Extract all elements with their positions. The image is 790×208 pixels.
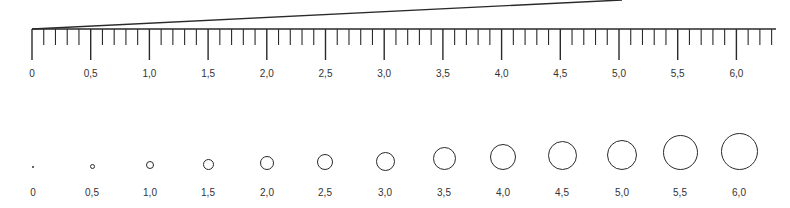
size-circle bbox=[146, 161, 154, 169]
size-circle bbox=[317, 154, 333, 170]
ruler-tick-label: 3,5 bbox=[436, 69, 450, 79]
ruler-tick-label: 2,5 bbox=[319, 69, 333, 79]
size-circle bbox=[260, 156, 274, 170]
ruler-tick-label: 1,5 bbox=[201, 69, 215, 79]
size-circle bbox=[548, 141, 577, 170]
size-circle bbox=[607, 140, 637, 170]
ruler-tick-label: 2,0 bbox=[260, 69, 274, 79]
size-circle bbox=[721, 133, 758, 170]
dot-icon bbox=[32, 166, 34, 168]
diagram-canvas: 00,51,01,52,02,53,03,54,04,55,05,56,0 00… bbox=[0, 0, 790, 208]
ruler-tick-label: 6,0 bbox=[729, 69, 743, 79]
circle-size-label: 4,5 bbox=[555, 188, 569, 198]
size-circle bbox=[90, 164, 95, 169]
ruler-tick-label: 4,5 bbox=[553, 69, 567, 79]
ruler-tick-label: 5,0 bbox=[612, 69, 626, 79]
circle-size-label: 1,5 bbox=[201, 188, 215, 198]
circle-size-label: 5,5 bbox=[673, 188, 687, 198]
ruler-tick-label: 4,0 bbox=[495, 69, 509, 79]
circle-size-label: 4,0 bbox=[496, 188, 510, 198]
ruler-tick-label: 1,0 bbox=[142, 69, 156, 79]
circle-size-label: 2,5 bbox=[318, 188, 332, 198]
size-circle bbox=[663, 135, 698, 170]
slant-line bbox=[32, 0, 622, 29]
circle-size-label: 1,0 bbox=[143, 188, 157, 198]
ruler-tick-label: 0 bbox=[29, 69, 35, 79]
ruler-tick-label: 3,0 bbox=[377, 69, 391, 79]
circle-size-label: 2,0 bbox=[260, 188, 274, 198]
circle-size-label: 6,0 bbox=[732, 188, 746, 198]
size-circle bbox=[376, 152, 395, 171]
size-circle bbox=[490, 144, 516, 170]
ruler bbox=[0, 0, 790, 208]
circle-size-label: 3,0 bbox=[378, 188, 392, 198]
circle-size-label: 0 bbox=[30, 188, 36, 198]
circle-size-label: 0,5 bbox=[85, 188, 99, 198]
ruler-tick-label: 5,5 bbox=[671, 69, 685, 79]
ruler-tick-label: 0,5 bbox=[84, 69, 98, 79]
size-circle bbox=[203, 159, 214, 170]
circle-size-label: 5,0 bbox=[615, 188, 629, 198]
size-circle bbox=[433, 147, 456, 170]
circle-size-label: 3,5 bbox=[437, 188, 451, 198]
